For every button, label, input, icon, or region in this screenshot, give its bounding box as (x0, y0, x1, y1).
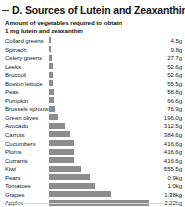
chart-row-value: 9.8g (152, 46, 182, 53)
chart-bar (49, 72, 53, 78)
chart-row-value: 66.6g (152, 97, 182, 104)
chart-row: Grapes1.38kg (5, 190, 182, 199)
chart-row-label: Leeks (5, 63, 49, 70)
chart-bar (49, 80, 53, 86)
chart-row-value: 0.9kg (152, 174, 182, 181)
chart-row-label: Cucumbers (5, 140, 49, 147)
chart-row-value: 1.38kg (152, 191, 182, 198)
chart-row-bar-track (49, 97, 152, 103)
chart-row-label: Carrots (5, 131, 49, 138)
chart-row-value: 312.5g (152, 122, 182, 129)
panel-title-row: D. Sources of Lutein and Zeaxanthin (0, 0, 185, 16)
chart-bar (49, 46, 51, 52)
chart-row-label: Currants (5, 157, 49, 164)
chart-row: Tomatoes1.0kg (5, 181, 182, 190)
chart-row-label: Peas (5, 88, 49, 95)
chart-row-label: Broccoli (5, 71, 49, 78)
chart-row-label: Green olives (5, 114, 49, 121)
chart-row: Pumpkin66.6g (5, 96, 182, 105)
chart-row-label: Kiwi (5, 165, 49, 172)
chart-row-bar-track (49, 149, 152, 155)
chart-row: Green olives196.0g (5, 113, 182, 122)
title-rule-left (2, 10, 9, 11)
chart-row-bar-track (49, 114, 152, 120)
chart-row-value: 58.8g (152, 88, 182, 95)
chart-bar (49, 191, 111, 197)
chart-row-value: 416.6g (152, 148, 182, 155)
chart-row-value: 416.6g (152, 140, 182, 147)
chart-bar (49, 123, 65, 129)
chart-row-value: 196.0g (152, 114, 182, 121)
chart-row-bar-track (49, 89, 152, 95)
chart-row-bar-track (49, 37, 152, 43)
chart-row-bar-track (49, 174, 152, 180)
chart-bar (49, 131, 70, 137)
chart-row-bar-track (49, 140, 152, 146)
chart-row-value: 76.9g (152, 105, 182, 112)
bar-chart-rows: Collard greens4.5gSpinach9.8gCelery gree… (0, 36, 185, 207)
chart-row-value: 555.5g (152, 165, 182, 172)
chart-row: Carrots384.6g (5, 130, 182, 139)
chart-row-label: Celery greens (5, 54, 49, 61)
chart-bar (49, 97, 54, 103)
chart-row-bar-track (49, 55, 152, 61)
chart-row-bar-track (49, 63, 152, 69)
chart-row-value: 52.6g (152, 63, 182, 70)
page-title: D. Sources of Lutein and Zeaxanthin (12, 4, 185, 16)
chart-bar (49, 106, 55, 112)
bottom-divider (3, 203, 182, 204)
chart-row-value: 4.5g (152, 37, 182, 44)
chart-row-value: 55.5g (152, 80, 182, 87)
chart-row-label: Grapes (5, 191, 49, 198)
chart-row-label: Tomatoes (5, 182, 49, 189)
chart-row-bar-track (49, 183, 152, 189)
lutein-sources-panel: D. Sources of Lutein and Zeaxanthin Amou… (0, 0, 185, 207)
chart-bar (49, 149, 74, 155)
chart-row-label: Boston lettuce (5, 80, 49, 87)
chart-row: Brussels sprouts76.9g (5, 105, 182, 114)
chart-row-value: 1.0kg (152, 182, 182, 189)
chart-row-label: Avocado (5, 122, 49, 129)
chart-row: Boston lettuce55.5g (5, 79, 182, 88)
chart-row: Collard greens4.5g (5, 36, 182, 45)
chart-row-value: 384.6g (152, 131, 182, 138)
chart-row-bar-track (49, 166, 152, 172)
chart-bar (49, 140, 74, 146)
chart-row-label: Collard greens (5, 37, 49, 44)
chart-row: Kiwi555.5g (5, 164, 182, 173)
chart-row-label: Pears (5, 174, 49, 181)
chart-bar (49, 166, 81, 172)
chart-row: Spinach9.8g (5, 45, 182, 54)
chart-bar (49, 183, 95, 189)
chart-bar (49, 55, 52, 61)
chart-row-bar-track (49, 72, 152, 78)
chart-row: Pears0.9kg (5, 173, 182, 182)
chart-row-value: 27.7g (152, 54, 182, 61)
chart-row-value: 52.6g (152, 71, 182, 78)
chart-row: Celery greens27.7g (5, 53, 182, 62)
chart-row-bar-track (49, 157, 152, 163)
chart-row: Leeks52.6g (5, 62, 182, 71)
chart-row: Broccoli52.6g (5, 70, 182, 79)
chart-row-bar-track (49, 46, 152, 52)
chart-bar (49, 63, 53, 69)
chart-row-bar-track (49, 123, 152, 129)
chart-bar (49, 114, 58, 120)
chart-bar (49, 174, 90, 180)
chart-row-label: Plums (5, 148, 49, 155)
chart-row: Currants416.6g (5, 156, 182, 165)
panel-subtitle: Amount of vegetables required to obtain … (5, 19, 125, 34)
chart-row-label: Brussels sprouts (5, 105, 49, 112)
chart-row-value: 416.6g (152, 157, 182, 164)
chart-row-bar-track (49, 131, 152, 137)
chart-row-bar-track (49, 106, 152, 112)
chart-row-bar-track (49, 191, 152, 197)
chart-row: Avocado312.5g (5, 122, 182, 131)
chart-bar (49, 37, 51, 43)
chart-row: Plums416.6g (5, 147, 182, 156)
chart-row: Peas58.8g (5, 87, 182, 96)
chart-row-bar-track (49, 80, 152, 86)
chart-bar (49, 157, 74, 163)
chart-bar (49, 89, 54, 95)
chart-row-label: Spinach (5, 46, 49, 53)
